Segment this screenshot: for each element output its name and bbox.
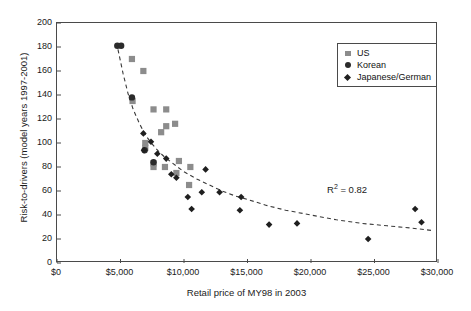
legend-label: Japanese/German (357, 73, 431, 82)
chart-legend: USKoreanJapanese/German (337, 43, 437, 87)
square-glyph (345, 51, 351, 57)
y-tick-label: 100 (6, 138, 52, 147)
data-point-diamond (154, 151, 161, 158)
y-tick-label: 60 (6, 186, 52, 195)
x-tick-label: $0 (51, 268, 61, 277)
data-point-square (172, 121, 178, 127)
legend-label: US (357, 49, 370, 58)
data-point-circle (118, 43, 124, 49)
x-tick-label: $25,000 (357, 268, 390, 277)
square-marker-icon (342, 47, 354, 59)
data-point-square (163, 106, 169, 112)
y-tick-label: 80 (6, 162, 52, 171)
r-symbol: R (327, 184, 334, 195)
y-tick-label: 140 (6, 90, 52, 99)
y-tick-label: 120 (6, 114, 52, 123)
data-point-square (186, 182, 192, 188)
y-tick-label: 180 (6, 42, 52, 51)
data-point-square (129, 56, 135, 62)
data-point-diamond (365, 236, 372, 243)
diamond-glyph (344, 73, 351, 80)
y-tick-label: 0 (6, 258, 52, 267)
data-point-diamond (237, 207, 244, 214)
x-tick-label: $5,000 (106, 268, 134, 277)
r-squared-annotation: R2 = 0.82 (327, 183, 367, 195)
x-axis-tick-labels: $0$5,000$10,000$15,000$20,000$25,000$30,… (56, 268, 437, 282)
circle-glyph (345, 62, 351, 68)
scatter-chart: 020406080100120140160180200 Risk-to-driv… (0, 0, 471, 311)
y-tick-label: 40 (6, 210, 52, 219)
x-tick-label: $20,000 (294, 268, 327, 277)
x-tick-label: $15,000 (230, 268, 263, 277)
data-point-diamond (412, 206, 419, 213)
y-tick-label: 160 (6, 66, 52, 75)
data-point-square (176, 158, 182, 164)
legend-item-japanese-german[interactable]: Japanese/German (342, 71, 431, 83)
diamond-marker-icon (342, 71, 354, 83)
r-value: = 0.82 (338, 184, 367, 195)
data-point-diamond (294, 220, 301, 227)
data-point-diamond (216, 189, 223, 196)
legend-label: Korean (357, 61, 386, 70)
y-tick-label: 20 (6, 234, 52, 243)
data-point-diamond (238, 194, 245, 201)
data-point-square (163, 123, 169, 129)
circle-marker-icon (342, 59, 354, 71)
data-point-square (187, 164, 193, 170)
data-point-square (162, 164, 168, 170)
data-point-diamond (266, 221, 273, 228)
data-point-circle (129, 94, 135, 100)
data-point-circle (150, 159, 156, 165)
data-point-diamond (185, 194, 192, 201)
y-tick-label: 200 (6, 18, 52, 27)
data-point-diamond (188, 206, 195, 213)
legend-item-korean[interactable]: Korean (342, 59, 431, 71)
data-point-diamond (140, 130, 147, 137)
legend-item-us[interactable]: US (342, 47, 431, 59)
data-point-square (140, 68, 146, 74)
data-point-diamond (202, 166, 209, 173)
x-axis-title: Retail price of MY98 in 2003 (56, 287, 437, 298)
data-point-square (150, 106, 156, 112)
y-axis-title: Risk-to-drivers (model years 1997-2001) (18, 33, 29, 243)
x-tick-label: $10,000 (167, 268, 200, 277)
data-point-square (158, 129, 164, 135)
data-point-diamond (198, 189, 205, 196)
x-tick-label: $30,000 (421, 268, 454, 277)
series-japanese-german (140, 130, 425, 242)
data-point-diamond (418, 219, 425, 226)
